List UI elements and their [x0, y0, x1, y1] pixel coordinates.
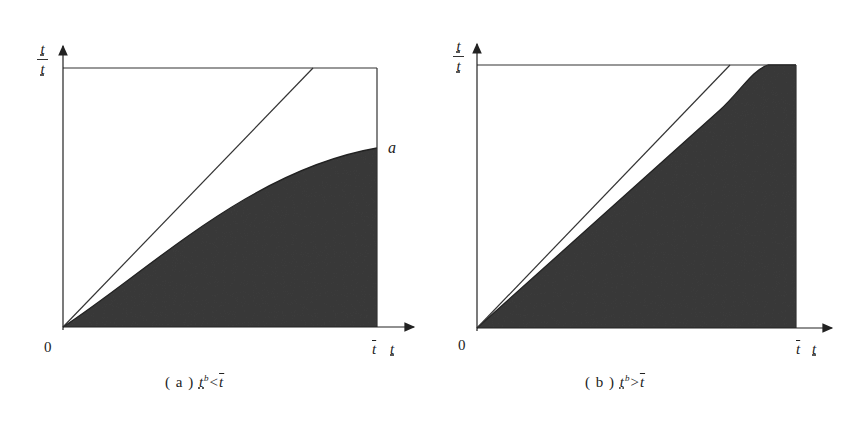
shaded-region-a	[63, 148, 377, 327]
x-tick-label-a: t	[372, 342, 376, 357]
shaded-region-b	[477, 65, 796, 328]
point-label-a: a	[388, 140, 396, 156]
caption-prefix-b: ( b )	[585, 374, 615, 390]
fraction-bar-b	[453, 56, 464, 57]
caption-a: ( a ) tb<t	[165, 373, 224, 391]
figure-canvas	[0, 0, 862, 422]
caption-rhs-b: t	[640, 374, 645, 390]
caption-b: ( b ) tb>t	[585, 373, 645, 391]
caption-op-b: >	[630, 374, 639, 390]
y-label-bottom-b: t	[456, 59, 460, 74]
x-axis-label-a: t	[390, 342, 394, 357]
caption-op-a: <	[210, 374, 219, 390]
x-tick-label-b: t	[796, 342, 800, 357]
y-label-top-a: t	[40, 42, 44, 57]
panel-a	[63, 46, 414, 330]
y-label-bottom-a: t	[40, 62, 44, 77]
x-axis-label-b: t	[812, 342, 816, 357]
panel-b	[477, 44, 832, 331]
fraction-bar-a	[37, 59, 48, 60]
origin-label-b: 0	[458, 338, 466, 353]
origin-label-a: 0	[44, 340, 52, 355]
caption-rhs-a: t	[219, 374, 224, 390]
y-axis-label-b: t t	[453, 39, 464, 74]
caption-prefix-a: ( a )	[165, 374, 194, 390]
y-axis-label-a: t t	[37, 42, 48, 77]
y-label-top-b: t	[456, 39, 460, 54]
